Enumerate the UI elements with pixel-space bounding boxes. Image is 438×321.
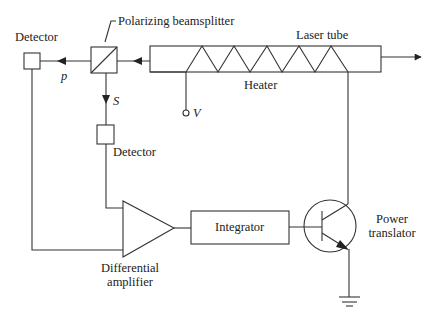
label-differential-amplifier: Differential amplifier [98,262,162,288]
label-polarizing-beamsplitter: Polarizing beamsplitter [118,15,234,28]
label-laser-tube: Laser tube [296,29,348,42]
differential-amplifier [123,201,174,257]
ground-symbol [339,297,360,306]
detector-s-box [97,125,114,144]
voltage-terminal [183,110,189,116]
label-voltage: V [193,107,201,120]
label-power-transistor: Power translator [356,213,428,239]
heater-coil [150,46,348,72]
label-differential-amplifier-line1: Differential [98,262,162,275]
laser-tube [150,46,381,72]
label-heater: Heater [244,79,277,92]
power-transistor [304,200,356,252]
diagram-canvas [0,0,438,321]
label-detector-s: Detector [113,146,156,159]
label-p-beam: p [61,70,67,83]
label-detector-p: Detector [15,31,58,44]
detector-p-box [24,53,40,69]
label-differential-amplifier-line2: amplifier [98,276,162,289]
label-power-transistor-line2: translator [356,227,428,240]
label-s-beam: S [113,95,119,108]
beamsplitter-leader [105,21,116,42]
label-integrator: Integrator [215,221,264,234]
label-power-transistor-line1: Power [356,213,428,226]
